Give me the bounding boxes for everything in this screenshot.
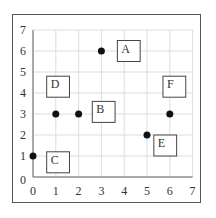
x-tick-label: 7 bbox=[190, 184, 196, 198]
y-tick-label: 2 bbox=[20, 128, 26, 142]
box-label: F bbox=[167, 77, 174, 91]
box-label: B bbox=[96, 102, 104, 116]
y-tick-label: 5 bbox=[20, 65, 26, 79]
y-tick-label: 7 bbox=[20, 23, 26, 37]
x-tick-label: 4 bbox=[121, 184, 127, 198]
x-tick-label: 0 bbox=[30, 184, 36, 198]
box-label: D bbox=[51, 77, 60, 91]
y-tick-label: 0 bbox=[20, 173, 26, 187]
data-point bbox=[144, 132, 151, 139]
y-tick-label: 4 bbox=[20, 86, 26, 100]
box-label: C bbox=[51, 153, 59, 167]
data-point bbox=[75, 111, 82, 118]
data-point bbox=[166, 111, 173, 118]
data-point bbox=[98, 48, 105, 55]
box-label: A bbox=[121, 42, 130, 56]
y-tick-label: 1 bbox=[20, 149, 26, 163]
x-tick-label: 2 bbox=[76, 184, 82, 198]
x-tick-label: 3 bbox=[98, 184, 104, 198]
x-tick-label: 6 bbox=[167, 184, 173, 198]
x-tick-label: 1 bbox=[53, 184, 59, 198]
data-point bbox=[52, 111, 59, 118]
y-tick-label: 3 bbox=[20, 107, 26, 121]
box-label: E bbox=[158, 136, 165, 150]
data-point bbox=[30, 153, 37, 160]
y-tick-label: 6 bbox=[20, 44, 26, 58]
x-tick-label: 5 bbox=[144, 184, 150, 198]
scatter-plot: 0123456701234567ABCDEF bbox=[0, 0, 216, 218]
